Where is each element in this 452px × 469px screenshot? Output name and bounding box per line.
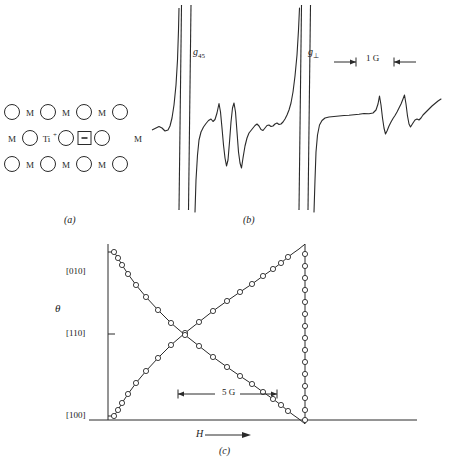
lattice-site-circle	[113, 157, 128, 172]
data-point	[302, 275, 307, 280]
lattice-label-M: M	[98, 108, 106, 118]
x-axis-arrow-icon	[205, 432, 251, 438]
lattice-label-M: M	[134, 134, 142, 144]
data-point	[302, 347, 307, 352]
data-point	[260, 273, 265, 278]
data-point	[302, 395, 307, 400]
lattice-label-M: M	[62, 108, 70, 118]
x-axis-label-h: H	[196, 428, 203, 439]
spectrum-trace-center	[195, 8, 300, 212]
data-point	[143, 294, 148, 299]
data-point	[302, 335, 307, 340]
spectrum-vertical-line	[179, 5, 182, 210]
data-point	[182, 332, 187, 337]
data-point	[119, 262, 124, 267]
lattice-label-M: M	[8, 134, 16, 144]
data-point-group	[111, 249, 307, 422]
data-point	[196, 343, 201, 348]
g45-label: g45	[193, 46, 205, 60]
lattice-site-circle	[77, 105, 92, 120]
data-point	[302, 371, 307, 376]
scale-bar-5g-label: 5 G	[222, 387, 235, 397]
lattice-site-circle	[113, 105, 128, 120]
panel-caption-a: (a)	[64, 214, 76, 225]
data-point	[155, 355, 160, 360]
ytick-label-010: [010]	[66, 266, 86, 276]
data-point	[249, 381, 254, 386]
lattice-site-circle	[41, 105, 56, 120]
data-point	[210, 354, 215, 359]
angular-plot-svg	[85, 238, 425, 438]
lattice-label-charge: +	[53, 131, 57, 139]
data-point	[168, 342, 173, 347]
lattice-site-circle	[5, 157, 20, 172]
epr-spectrum-svg	[150, 0, 450, 215]
lattice-site-circle	[41, 157, 56, 172]
data-point	[249, 281, 254, 286]
data-point	[278, 402, 283, 407]
ytick-label-110: [110]	[66, 328, 85, 338]
data-point	[125, 271, 130, 276]
figure-root: M M M M M M M M Ti +	[0, 0, 452, 469]
spectrum-vertical-line	[299, 5, 302, 210]
data-point	[302, 407, 307, 412]
curve-branch-1	[114, 244, 305, 416]
data-point	[224, 364, 229, 369]
data-point	[302, 299, 307, 304]
data-point	[133, 282, 138, 287]
data-point	[302, 323, 307, 328]
data-point	[302, 417, 307, 422]
data-point	[270, 266, 275, 271]
lattice-site-circle	[5, 105, 20, 120]
data-point	[115, 255, 120, 260]
lattice-label-titanium: Ti	[43, 134, 51, 144]
lattice-label-M: M	[62, 160, 70, 170]
data-point	[111, 249, 116, 254]
lattice-diagram-svg: M M M M M M M M Ti +	[0, 98, 160, 178]
data-point	[285, 408, 290, 413]
scale-bar-1g-label: 1 G	[366, 53, 379, 63]
data-point	[210, 308, 215, 313]
lattice-label-M: M	[98, 160, 106, 170]
data-point	[224, 298, 229, 303]
data-point	[285, 254, 290, 259]
spectrum-trace-right	[314, 95, 441, 212]
data-point	[196, 319, 201, 324]
lattice-label-M: M	[26, 160, 34, 170]
data-point	[270, 396, 275, 401]
data-point	[302, 251, 307, 256]
data-point	[133, 380, 138, 385]
data-point	[115, 407, 120, 412]
spectrum-vertical-line	[308, 5, 311, 210]
spectrum-vertical-line	[189, 5, 192, 210]
data-point	[111, 413, 116, 418]
lattice-site-circle	[59, 131, 74, 146]
lattice-site-circle	[77, 157, 92, 172]
lattice-site-circle	[23, 131, 38, 146]
spectrum-trace-left	[152, 8, 179, 131]
data-point	[302, 311, 307, 316]
data-point	[278, 260, 283, 265]
data-point	[302, 287, 307, 292]
data-point	[302, 359, 307, 364]
lattice-site-circle	[95, 131, 110, 146]
lattice-label-M: M	[26, 108, 34, 118]
data-point	[119, 400, 124, 405]
data-point	[125, 391, 130, 396]
data-point	[302, 383, 307, 388]
curve-branch-2	[114, 252, 305, 424]
data-point	[237, 289, 242, 294]
y-axis-label-theta: θ	[55, 302, 60, 314]
data-point	[143, 368, 148, 373]
data-point	[237, 373, 242, 378]
panel-caption-b: (b)	[243, 214, 255, 225]
data-point	[155, 307, 160, 312]
ytick-label-100: [100]	[66, 410, 86, 420]
data-point	[302, 263, 307, 268]
panel-caption-c: (c)	[219, 445, 230, 456]
g-perpendicular-label: g⊥	[308, 46, 319, 60]
data-point	[168, 320, 173, 325]
